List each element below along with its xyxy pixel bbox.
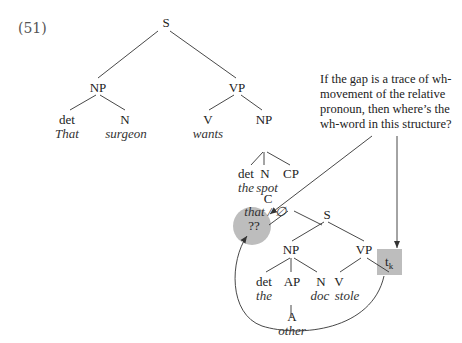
example-number: (51) — [18, 20, 47, 36]
node-s-embedded: S — [323, 207, 330, 222]
word-the: the — [256, 288, 272, 303]
node-v: V — [334, 274, 344, 289]
node-n: N — [120, 112, 130, 127]
word-the: the — [238, 180, 254, 195]
node-vp: VP — [229, 80, 246, 95]
node-ap: AP — [284, 274, 301, 289]
node-det: det — [256, 274, 272, 289]
node-a: A — [287, 309, 297, 324]
node-n: N — [260, 166, 270, 181]
word-doc: doc — [311, 288, 330, 303]
node-det: det — [59, 112, 75, 127]
annotation-line: If the gap is a trace of wh- — [320, 72, 452, 86]
node-n: N — [316, 274, 326, 289]
node-s-root: S — [162, 15, 169, 30]
node-v: V — [203, 112, 213, 127]
word-wants: wants — [193, 126, 223, 141]
node-det: det — [238, 166, 254, 181]
word-stole: stole — [335, 288, 360, 303]
syntax-tree-diagram: (51) S NP det That N surgeon VP V wants — [0, 0, 462, 343]
question-node: ?? — [248, 218, 260, 233]
word-that: That — [55, 126, 79, 141]
annotation: If the gap is a trace of wh- movement of… — [320, 72, 452, 131]
node-np-object: NP — [256, 112, 273, 127]
node-np-inner: NP — [283, 242, 300, 257]
node-vp-inner: VP — [356, 242, 373, 257]
annotation-line: movement of the relative — [320, 87, 446, 101]
annotation-line: pronoun, then where’s the — [320, 102, 450, 116]
node-cp: CP — [283, 166, 299, 181]
annotation-line: wh-word in this structure? — [320, 117, 452, 131]
node-np-subject: NP — [90, 80, 107, 95]
word-surgeon: surgeon — [105, 126, 146, 141]
